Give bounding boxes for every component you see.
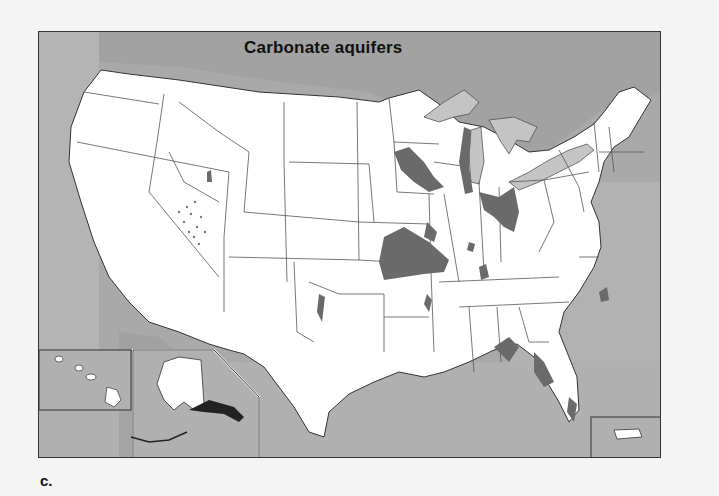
hawaii-inset: [39, 350, 131, 410]
map-title: Carbonate aquifers: [244, 38, 403, 58]
panel-label: c.: [40, 472, 53, 489]
map-frame: Carbonate aquifers: [38, 31, 661, 458]
puerto-rico-inset: [591, 417, 661, 458]
us-map: [39, 32, 661, 458]
